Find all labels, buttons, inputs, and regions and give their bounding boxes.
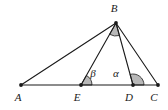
angle-label-alpha: α — [113, 67, 119, 79]
vertex-dot-e — [79, 83, 83, 87]
vertex-label-c: C — [150, 91, 158, 103]
geometry-figure: AEDCB βα — [0, 0, 168, 110]
vertex-dot-a — [19, 83, 23, 87]
vertex-dot-c — [156, 83, 160, 87]
vertex-label-d: D — [124, 91, 133, 103]
vertex-label-a: A — [14, 91, 22, 103]
vertex-label-e: E — [73, 91, 81, 103]
figure-background — [0, 0, 168, 110]
angle-label-beta: β — [89, 67, 96, 79]
geometry-canvas: AEDCB βα — [0, 0, 168, 110]
vertex-dot-b — [114, 21, 118, 25]
vertex-label-b: B — [111, 2, 118, 14]
vertex-dot-d — [131, 83, 135, 87]
